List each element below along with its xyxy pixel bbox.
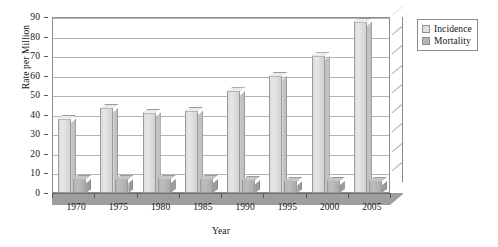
- bar-side-face: [128, 179, 133, 193]
- bar-front-face: [100, 108, 113, 193]
- y-axis-tick-label: 50: [30, 90, 40, 100]
- x-axis-tick-label: 2000: [320, 202, 339, 212]
- bar-front-face: [227, 91, 240, 193]
- bar-front-face: [158, 179, 171, 193]
- y-axis-tick-mark: [44, 193, 48, 194]
- side-gridline: [392, 143, 403, 152]
- x-axis-tick-mark: [306, 193, 307, 198]
- x-axis-tick-mark: [390, 193, 391, 198]
- bar: [284, 181, 297, 193]
- y-axis-tick-label: 40: [30, 110, 40, 120]
- bar-front-face: [58, 119, 71, 193]
- y-axis-tick-mark: [44, 37, 48, 38]
- bar: [227, 91, 240, 193]
- y-axis-tick-mark: [44, 115, 48, 116]
- bar: [327, 181, 340, 193]
- bar-front-face: [327, 181, 340, 193]
- x-axis-tick-label: 1970: [66, 202, 85, 212]
- y-axis-tick-mark: [44, 17, 48, 18]
- chart-container: Rate per Million 0102030405060708090 197…: [0, 0, 498, 247]
- bar-side-face: [282, 76, 287, 193]
- y-axis-tick-label: 90: [30, 12, 40, 22]
- bar-front-face: [284, 181, 297, 193]
- bar-front-face: [115, 179, 128, 193]
- bar: [100, 108, 113, 193]
- y-axis-tick-label: 70: [30, 51, 40, 61]
- x-axis-tick-mark: [94, 193, 95, 198]
- y-axis-tick-label: 10: [30, 168, 40, 178]
- x-axis-tick-mark: [221, 193, 222, 198]
- side-gridline: [392, 104, 403, 113]
- x-axis-tick-label: 1995: [278, 202, 297, 212]
- x-axis-title: Year: [52, 226, 390, 236]
- y-axis-tick-label: 60: [30, 71, 40, 81]
- bar: [73, 179, 86, 193]
- x-axis-tick-mark: [52, 193, 53, 198]
- x-axis-ticks: 19701975198019851990199520002005: [52, 193, 404, 223]
- chart-legend: Incidence Mortality: [417, 19, 478, 51]
- y-axis-tick-label: 20: [30, 149, 40, 159]
- bar-front-face: [354, 22, 367, 193]
- y-axis-tick-mark: [44, 95, 48, 96]
- bar: [143, 113, 156, 193]
- bar-front-face: [312, 56, 325, 193]
- legend-label-mortality: Mortality: [434, 36, 471, 46]
- x-axis-tick-mark: [263, 193, 264, 198]
- side-gridline: [392, 84, 403, 93]
- bar-side-face: [382, 181, 387, 193]
- bar: [369, 181, 382, 193]
- side-gridline: [392, 26, 403, 35]
- bar-series-group: [52, 17, 390, 193]
- bar-side-face: [255, 180, 260, 193]
- y-axis-tick-mark: [44, 134, 48, 135]
- side-gridline: [392, 45, 403, 54]
- x-axis-tick-label: 1990: [235, 202, 254, 212]
- bar-side-face: [171, 179, 176, 193]
- x-axis-tick-label: 1975: [109, 202, 128, 212]
- y-axis-tick-mark: [44, 76, 48, 77]
- x-axis-tick-mark: [179, 193, 180, 198]
- legend-item-incidence: Incidence: [422, 24, 472, 34]
- bar: [115, 179, 128, 193]
- legend-label-incidence: Incidence: [434, 24, 472, 34]
- bar: [354, 22, 367, 193]
- bar-side-face: [86, 179, 91, 193]
- y-axis-ticks: 0102030405060708090: [18, 0, 48, 247]
- plot-side-wall: [390, 17, 403, 193]
- bar: [58, 119, 71, 193]
- bar-front-face: [143, 113, 156, 193]
- bar-side-face: [297, 181, 302, 193]
- y-axis-tick-mark: [44, 56, 48, 57]
- bar-side-face: [325, 56, 330, 193]
- bar-front-face: [269, 76, 282, 193]
- bar-front-face: [242, 180, 255, 193]
- x-axis-tick-label: 1980: [151, 202, 170, 212]
- bar-side-face: [240, 91, 245, 193]
- legend-item-mortality: Mortality: [422, 36, 472, 46]
- bar-front-face: [73, 179, 86, 193]
- side-gridline: [392, 163, 403, 172]
- side-gridline: [392, 123, 403, 132]
- bar: [158, 179, 171, 193]
- bar: [269, 76, 282, 193]
- y-axis-tick-label: 0: [35, 188, 40, 198]
- x-axis-tick-label: 2005: [362, 202, 381, 212]
- side-gridline: [392, 6, 403, 15]
- bar-front-face: [185, 111, 198, 193]
- legend-swatch-icon-incidence: [422, 25, 430, 33]
- side-gridline: [392, 65, 403, 74]
- y-axis-tick-mark: [44, 173, 48, 174]
- x-axis-tick-label: 1985: [193, 202, 212, 212]
- y-axis-tick-label: 30: [30, 129, 40, 139]
- bar-front-face: [369, 181, 382, 193]
- bar: [312, 56, 325, 193]
- bar-side-face: [367, 22, 372, 193]
- bar: [200, 179, 213, 193]
- bar-side-face: [213, 179, 218, 193]
- x-axis-tick-mark: [348, 193, 349, 198]
- plot-area: [52, 17, 390, 193]
- y-axis-tick-label: 80: [30, 32, 40, 42]
- bar: [242, 180, 255, 193]
- legend-swatch-icon-mortality: [422, 37, 430, 45]
- bar: [185, 111, 198, 193]
